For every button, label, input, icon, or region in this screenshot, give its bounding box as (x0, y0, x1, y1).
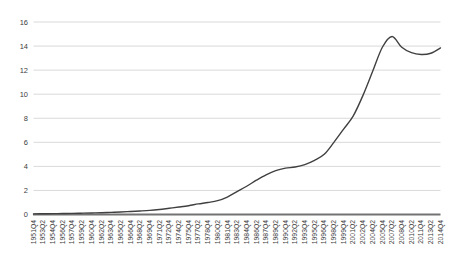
x-tick-label: 2011Q4 (417, 220, 425, 244)
x-tick-label: 1998Q2 (330, 220, 338, 244)
y-tick-label: 0 (24, 210, 28, 219)
y-tick-label: 16 (20, 18, 28, 27)
x-tick-label: 1951Q4 (30, 220, 38, 244)
x-tick-label: 1990Q4 (282, 220, 290, 244)
x-tick-label: 1969Q4 (146, 220, 154, 244)
x-tick-label: 1977Q2 (194, 220, 202, 244)
x-tick-label: 1986Q2 (253, 220, 261, 244)
y-tick-label: 4 (24, 162, 28, 171)
line-chart: 02468101214161951Q41953Q21954Q41956Q2195… (0, 0, 449, 261)
x-tick-label: 1993Q4 (301, 220, 309, 244)
y-tick-label: 12 (20, 66, 28, 75)
x-tick-label: 1999Q4 (340, 220, 348, 244)
x-tick-label: 1971Q2 (156, 220, 164, 244)
x-tick-label: 1963Q4 (107, 220, 115, 244)
x-tick-label: 2010Q2 (408, 220, 416, 244)
y-tick-label: 6 (24, 138, 28, 147)
x-tick-label: 1953Q2 (39, 220, 47, 244)
x-tick-label: 1983Q2 (233, 220, 241, 244)
x-tick-label: 1957Q4 (68, 220, 76, 244)
series-line (34, 36, 441, 213)
x-tick-label: 1987Q4 (262, 220, 270, 244)
x-tick-label: 1975Q4 (185, 220, 193, 244)
y-tick-label: 14 (20, 42, 28, 51)
x-tick-label: 1992Q2 (291, 220, 299, 244)
y-tick-label: 8 (24, 114, 28, 123)
x-tick-label: 1956Q2 (59, 220, 67, 244)
x-tick-label: 1954Q4 (49, 220, 57, 244)
x-tick-label: 1989Q2 (272, 220, 280, 244)
x-tick-label: 2007Q2 (388, 220, 396, 244)
x-tick-label: 1972Q4 (165, 220, 173, 244)
x-tick-label: 1960Q4 (88, 220, 96, 244)
x-axis-labels: 1951Q41953Q21954Q41956Q21957Q41959Q21960… (30, 220, 445, 244)
x-tick-label: 1965Q2 (117, 220, 125, 244)
x-tick-label: 2002Q4 (359, 220, 367, 244)
x-tick-label: 2013Q2 (427, 220, 435, 244)
x-tick-label: 1984Q4 (243, 220, 251, 244)
x-tick-label: 1968Q2 (136, 220, 144, 244)
x-tick-label: 2008Q4 (398, 220, 406, 244)
x-tick-label: 1978Q4 (204, 220, 212, 244)
x-tick-label: 1980Q2 (214, 220, 222, 244)
x-tick-label: 1996Q4 (320, 220, 328, 244)
x-tick-label: 1995Q2 (311, 220, 319, 244)
y-axis-labels: 0246810121416 (20, 18, 28, 220)
x-tick-label: 2014Q4 (437, 220, 445, 244)
x-tick-label: 1962Q2 (98, 220, 106, 244)
gridlines (34, 22, 441, 190)
x-tick-label: 1959Q2 (78, 220, 86, 244)
x-tick-label: 2004Q2 (369, 220, 377, 244)
chart-area: 02468101214161951Q41953Q21954Q41956Q2195… (0, 0, 449, 261)
y-tick-label: 2 (24, 186, 28, 195)
y-tick-label: 10 (20, 90, 28, 99)
x-tick-label: 2005Q4 (379, 220, 387, 244)
x-tick-label: 1966Q4 (127, 220, 135, 244)
x-tick-label: 1981Q4 (224, 220, 232, 244)
x-tick-label: 1974Q2 (175, 220, 183, 244)
x-tick-label: 2001Q2 (349, 220, 357, 244)
